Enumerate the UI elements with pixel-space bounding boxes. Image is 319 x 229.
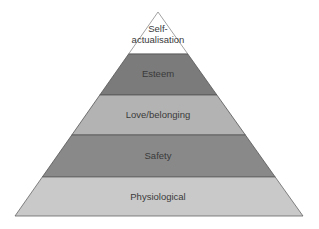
label-safety: Safety — [145, 150, 172, 161]
label-esteem: Esteem — [142, 68, 174, 79]
label-self-line1: Self- — [148, 23, 168, 34]
maslow-pyramid: Self- actualisation Esteem Love/belongin… — [0, 0, 319, 229]
label-self-line2: actualisation — [132, 34, 185, 45]
label-love-belonging: Love/belonging — [126, 109, 190, 120]
label-physiological: Physiological — [130, 191, 185, 202]
